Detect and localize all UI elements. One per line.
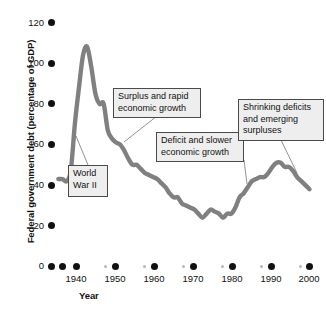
callout-deficit-and-slower-economic-growth: Deficit and slower economic growth [156,132,244,162]
leader-line-world-war-ii [76,136,88,165]
chart-container: Federal government debt (percentage of G… [0,0,326,312]
callout-surplus-and-rapid-economic-growth: Surplus and rapid economic growth [113,88,201,118]
callout-world-war-ii: World War II [68,165,108,197]
leader-line-deficit [244,160,247,184]
leader-line-surplus [124,116,157,142]
callout-shrinking-deficits-and-emerging-surpluses: Shrinking deficits and emerging surpluse… [238,99,324,141]
